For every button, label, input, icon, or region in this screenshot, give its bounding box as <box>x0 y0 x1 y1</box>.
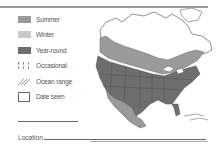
bottom-rule <box>90 141 208 142</box>
legend-label: Year-round <box>36 46 67 55</box>
legend-label: Winter <box>36 30 54 39</box>
occasional-dashes-icon <box>18 62 31 69</box>
year-round-swatch-icon <box>18 47 31 54</box>
legend-label: Occasional <box>36 61 67 70</box>
summer-swatch-icon <box>18 16 31 23</box>
florida <box>172 104 180 116</box>
legend-item-ocean-range: Ocean range <box>18 75 80 87</box>
winter-swatch-icon <box>18 31 31 38</box>
legend-item-year-round: Year-round <box>18 44 80 56</box>
caribbean-islands <box>184 114 208 120</box>
range-map <box>92 8 222 130</box>
legend-item-winter: Winter <box>18 29 80 41</box>
location-label: Location <box>18 133 39 142</box>
date-entry-line[interactable] <box>18 121 78 122</box>
legend-label: Date seen <box>36 92 64 101</box>
ocean-hatch-icon <box>18 78 31 85</box>
legend-item-occasional: Occasional <box>18 60 80 72</box>
range-legend: Summer Winter Year-round Occasional Ocea… <box>18 13 80 106</box>
legend-item-date-seen: Date seen <box>18 91 80 103</box>
date-seen-checkbox[interactable] <box>18 92 30 102</box>
legend-label: Ocean range <box>36 77 72 86</box>
greenland-outline <box>180 8 202 22</box>
legend-label: Summer <box>36 15 60 24</box>
location-entry-line[interactable] <box>44 139 206 140</box>
legend-item-summer: Summer <box>18 13 80 25</box>
